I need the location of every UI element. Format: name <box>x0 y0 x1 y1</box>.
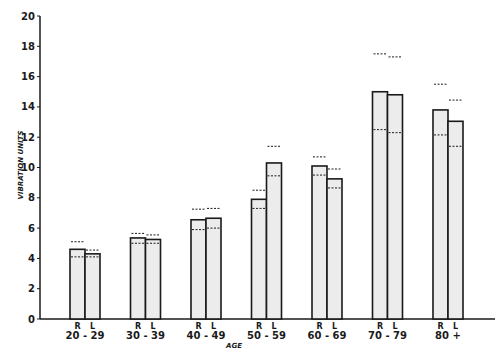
y-axis-title: VIBRATION UNITS <box>17 130 25 199</box>
bar-l <box>146 239 161 319</box>
bars: RL20 - 29RL30 - 39RL40 - 49RL50 - 59RL60… <box>66 54 463 341</box>
bar-group: RL20 - 29 <box>66 242 105 341</box>
bar-r <box>191 220 206 319</box>
y-tick-label: 2 <box>28 283 35 294</box>
category-label: 20 - 29 <box>66 330 105 341</box>
bar-group: RL80 + <box>433 84 463 341</box>
category-label: 30 - 39 <box>126 330 165 341</box>
bar-l <box>267 163 282 319</box>
bar-group: RL50 - 59 <box>247 146 286 341</box>
bar-group: RL30 - 39 <box>126 233 165 341</box>
y-tick-label: 4 <box>28 253 35 264</box>
y-tick-label: 16 <box>21 71 35 82</box>
y-tick-label: 20 <box>21 11 35 22</box>
bar-r <box>433 110 448 319</box>
bar-l <box>388 95 403 319</box>
bar-l <box>206 218 221 319</box>
chart: 02468101214161820 RL20 - 29RL30 - 39RL40… <box>0 0 503 357</box>
bar-l <box>85 254 100 319</box>
y-tick-label: 0 <box>28 314 35 325</box>
y-tick-label: 6 <box>28 223 35 234</box>
x-axis-title: AGE <box>225 342 242 350</box>
chart-canvas: 02468101214161820 RL20 - 29RL30 - 39RL40… <box>0 0 503 357</box>
category-label: 80 + <box>435 330 461 341</box>
bar-group: RL70 - 79 <box>368 54 407 341</box>
y-tick-label: 18 <box>21 41 35 52</box>
y-tick-label: 8 <box>28 192 35 203</box>
y-tick-label: 14 <box>21 101 35 112</box>
bar-l <box>448 121 463 319</box>
bar-r <box>131 238 146 319</box>
category-label: 70 - 79 <box>368 330 407 341</box>
category-label: 50 - 59 <box>247 330 286 341</box>
bar-r <box>252 199 267 319</box>
category-label: 60 - 69 <box>308 330 347 341</box>
bar-r <box>373 92 388 319</box>
bar-r <box>70 249 85 319</box>
bar-r <box>312 166 327 319</box>
bar-group: RL40 - 49 <box>187 208 226 341</box>
category-label: 40 - 49 <box>187 330 226 341</box>
bar-l <box>327 179 342 319</box>
bar-group: RL60 - 69 <box>308 157 347 341</box>
